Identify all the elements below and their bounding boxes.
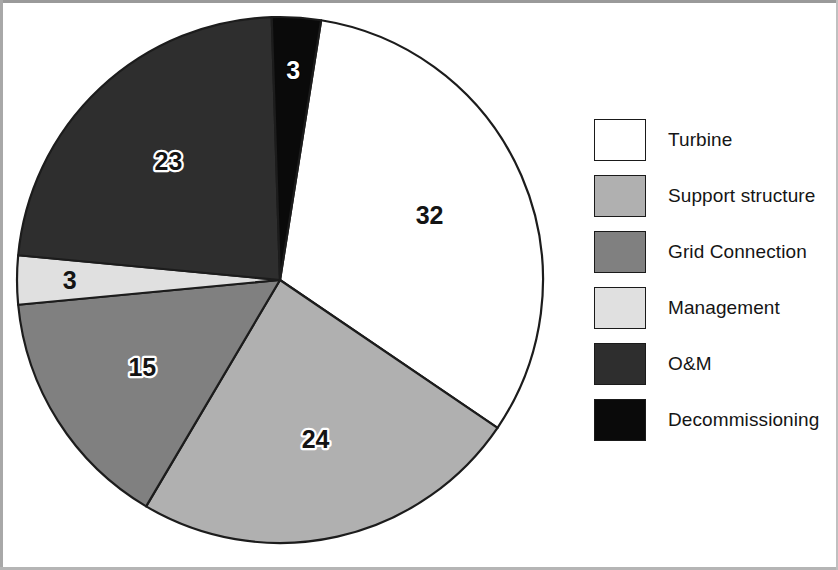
- legend-swatch: [594, 343, 646, 385]
- legend-item[interactable]: O&M: [594, 336, 834, 392]
- pie-slice-label: 32: [416, 201, 444, 229]
- legend-item-label: Grid Connection: [668, 241, 807, 263]
- legend-item[interactable]: Support structure: [594, 168, 834, 224]
- pie-chart-svg: 3224153233: [13, 13, 547, 547]
- legend-item-label: O&M: [668, 353, 712, 375]
- legend-item[interactable]: Turbine: [594, 112, 834, 168]
- legend-item-label: Support structure: [668, 185, 815, 207]
- legend-item[interactable]: Management: [594, 280, 834, 336]
- legend-swatch: [594, 399, 646, 441]
- pie-slice: [18, 17, 280, 280]
- legend-swatch: [594, 175, 646, 217]
- pie-slice-label: 3: [286, 56, 300, 84]
- legend-item-label: Decommissioning: [668, 409, 819, 431]
- pie-slice-group: [17, 17, 543, 543]
- legend-swatch: [594, 231, 646, 273]
- legend-swatch: [594, 287, 646, 329]
- page-edge-top: [0, 0, 838, 3]
- pie-slice-label: 3: [63, 266, 77, 294]
- pie-chart: 3224153233: [13, 13, 547, 547]
- page-edge-left: [0, 0, 3, 570]
- legend-item-label: Turbine: [668, 129, 732, 151]
- chart-legend: TurbineSupport structureGrid ConnectionM…: [594, 112, 834, 448]
- pie-slice-label: 24: [302, 425, 330, 453]
- legend-swatch: [594, 119, 646, 161]
- pie-slice-label: 23: [154, 147, 182, 175]
- pie-slice-label: 15: [128, 353, 156, 381]
- legend-item-label: Management: [668, 297, 780, 319]
- legend-item[interactable]: Grid Connection: [594, 224, 834, 280]
- legend-item[interactable]: Decommissioning: [594, 392, 834, 448]
- chart-screenshot: 3224153233 TurbineSupport structureGrid …: [0, 0, 838, 570]
